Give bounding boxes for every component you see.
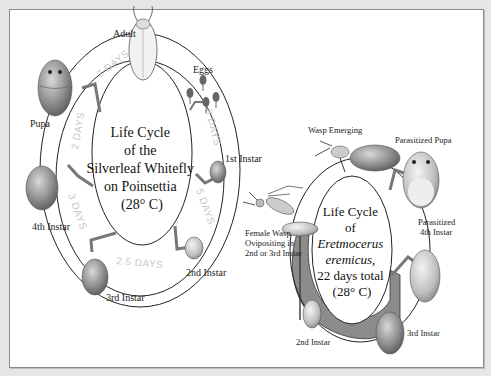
parasitized-pupa-icon: [403, 152, 439, 208]
label-eggs: Eggs: [193, 64, 213, 75]
second-instar-icon: [185, 237, 203, 259]
third-instar-icon: [82, 259, 108, 295]
life-cycle-diagram: 2 DAYS 2 DAYS 3 DAYS 2.5 DAYS 5 DAYS 8 D…: [0, 0, 491, 376]
label-wasp-third-instar: 3rd Instar: [407, 328, 440, 338]
label-third-instar: 3rd Instar: [106, 292, 145, 303]
wasp-cycle: Wasp Emerging Parasitized Pupa Parasitiz…: [243, 125, 457, 354]
label-wasp-emerging: Wasp Emerging: [308, 125, 363, 135]
label-first-instar: 1st Instar: [225, 153, 263, 164]
label-parasitized-fourth: Parasitized 4th Instar: [418, 217, 457, 237]
duration-first-to-second: 5 DAYS: [194, 187, 217, 226]
whitefly-cycle: 2 DAYS 2 DAYS 3 DAYS 2.5 DAYS 5 DAYS 8 D…: [26, 6, 263, 307]
first-instar-icon: [210, 161, 226, 183]
wasp-emerging-icon: [315, 141, 400, 172]
adult-whitefly-icon: [129, 6, 157, 80]
wasp-third-instar-icon: [376, 312, 404, 354]
label-pupa: Pupa: [30, 118, 51, 129]
duration-fourth-to-pupa: 2 DAYS: [69, 111, 86, 150]
duration-second-to-third: 2.5 DAYS: [116, 255, 164, 270]
label-parasitized-pupa: Parasitized Pupa: [395, 135, 452, 145]
wasp-second-instar-icon: [303, 300, 321, 328]
fourth-instar-icon: [26, 166, 58, 210]
label-wasp-second-instar: 2nd Instar: [296, 337, 330, 347]
label-fourth-instar: 4th Instar: [32, 221, 71, 232]
duration-eggs-to-first: 8 DAYS: [203, 108, 223, 147]
label-adult: Adult: [113, 28, 136, 39]
label-second-instar: 2nd Instar: [186, 267, 227, 278]
parasitized-fourth-instar-icon: [410, 250, 440, 302]
pupa-icon: [38, 60, 72, 116]
